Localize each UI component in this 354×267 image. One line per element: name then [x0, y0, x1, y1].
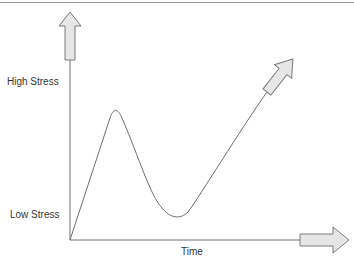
high-stress-label: High Stress: [7, 76, 59, 87]
stress-curve-line: [70, 92, 267, 240]
y-axis-arrow-icon: [59, 12, 81, 60]
trend-arrow-icon: [258, 52, 301, 99]
x-axis-arrow-icon: [300, 227, 349, 253]
low-stress-label: Low Stress: [10, 209, 59, 220]
stress-curve-diagram: [0, 0, 354, 267]
time-axis-label: Time: [181, 246, 203, 257]
